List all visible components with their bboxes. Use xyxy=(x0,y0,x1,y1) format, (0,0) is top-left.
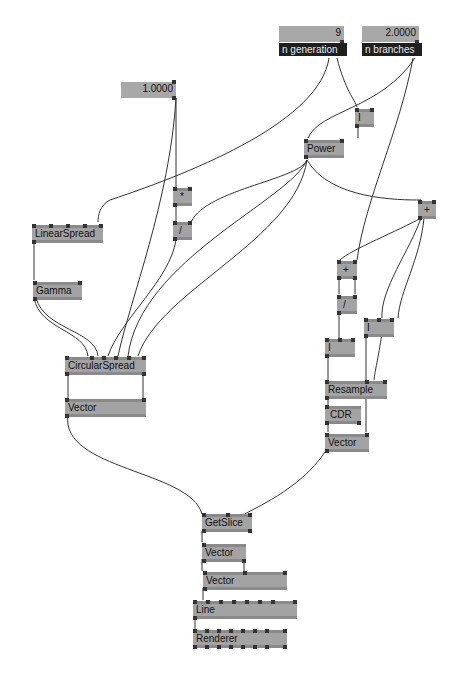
pin[interactable] xyxy=(241,645,245,649)
pin[interactable] xyxy=(217,645,221,649)
pin[interactable] xyxy=(232,600,236,604)
pin[interactable] xyxy=(202,513,206,517)
pin[interactable] xyxy=(271,600,275,604)
pin[interactable] xyxy=(353,276,357,280)
pin[interactable] xyxy=(365,433,369,437)
pin[interactable] xyxy=(172,80,176,84)
pin[interactable] xyxy=(253,645,257,649)
pin[interactable] xyxy=(99,224,103,228)
node-gamma[interactable]: Gamma xyxy=(33,282,82,300)
pin[interactable] xyxy=(353,295,357,299)
pin[interactable] xyxy=(337,260,341,264)
pin[interactable] xyxy=(357,421,361,425)
node-plus-right[interactable]: + xyxy=(418,201,436,219)
pin[interactable] xyxy=(173,187,177,191)
pin[interactable] xyxy=(193,600,197,604)
pin[interactable] xyxy=(365,380,369,384)
node-renderer[interactable]: Renderer xyxy=(193,630,287,648)
pin[interactable] xyxy=(325,338,329,342)
node-linear-spread[interactable]: LinearSpread xyxy=(32,225,103,243)
node-multiply[interactable]: * xyxy=(173,188,192,206)
node-vector-left[interactable]: Vector xyxy=(65,399,146,417)
pin[interactable] xyxy=(205,645,209,649)
pin[interactable] xyxy=(173,237,177,241)
pin[interactable] xyxy=(205,629,209,633)
node-i-top[interactable]: I xyxy=(355,109,374,127)
pin[interactable] xyxy=(355,108,359,112)
pin[interactable] xyxy=(340,139,344,143)
pin[interactable] xyxy=(242,559,246,563)
pin[interactable] xyxy=(370,108,374,112)
pin[interactable] xyxy=(304,139,308,143)
pin[interactable] xyxy=(325,405,329,409)
pin[interactable] xyxy=(229,629,233,633)
pin[interactable] xyxy=(188,221,192,225)
pin[interactable] xyxy=(253,629,257,633)
pin[interactable] xyxy=(383,380,387,384)
pin[interactable] xyxy=(390,318,394,322)
pin[interactable] xyxy=(193,645,197,649)
scale-input[interactable]: 1.0000 xyxy=(121,82,176,98)
pin[interactable] xyxy=(193,629,197,633)
pin[interactable] xyxy=(65,414,69,418)
node-resample[interactable]: Resample xyxy=(325,381,387,399)
pin[interactable] xyxy=(418,200,422,204)
node-vector-b[interactable]: Vector xyxy=(203,572,287,590)
pin[interactable] xyxy=(293,600,297,604)
pin[interactable] xyxy=(325,421,329,425)
pin[interactable] xyxy=(66,224,70,228)
node-getslice[interactable]: GetSlice xyxy=(202,514,252,532)
pin[interactable] xyxy=(265,629,269,633)
n-branches-input[interactable]: 2.0000 xyxy=(362,26,419,42)
node-i-left[interactable]: I xyxy=(325,339,355,357)
node-vector-a[interactable]: Vector xyxy=(202,544,246,562)
node-vector-right[interactable]: Vector xyxy=(325,434,369,452)
pin[interactable] xyxy=(33,281,37,285)
pin[interactable] xyxy=(65,356,69,360)
node-power[interactable]: Power xyxy=(304,140,344,158)
pin[interactable] xyxy=(114,356,118,360)
pin[interactable] xyxy=(142,372,146,376)
pin[interactable] xyxy=(338,338,342,342)
pin[interactable] xyxy=(83,224,87,228)
pin[interactable] xyxy=(304,155,308,159)
pin[interactable] xyxy=(325,396,329,400)
node-i-right[interactable]: I xyxy=(364,319,394,337)
pin[interactable] xyxy=(337,311,341,315)
pin[interactable] xyxy=(203,571,207,575)
pin[interactable] xyxy=(203,587,207,591)
pin[interactable] xyxy=(351,338,355,342)
pin[interactable] xyxy=(283,571,287,575)
node-cdr[interactable]: CDR xyxy=(325,406,361,424)
node-circular-spread[interactable]: CircularSpread xyxy=(65,357,146,375)
pin[interactable] xyxy=(217,629,221,633)
pin[interactable] xyxy=(49,224,53,228)
pin[interactable] xyxy=(432,200,436,204)
node-plus-mid[interactable]: + xyxy=(337,261,357,279)
pin[interactable] xyxy=(229,645,233,649)
pin[interactable] xyxy=(283,645,287,649)
patch-canvas[interactable]: 9 n generation 2.0000 n branches 1.0000 … xyxy=(0,0,462,676)
pin[interactable] xyxy=(325,449,329,453)
node-divide-right[interactable]: / xyxy=(337,296,357,314)
pin[interactable] xyxy=(78,281,82,285)
pin[interactable] xyxy=(102,356,106,360)
pin[interactable] xyxy=(173,203,177,207)
pin[interactable] xyxy=(127,356,131,360)
pin[interactable] xyxy=(142,398,146,402)
pin[interactable] xyxy=(241,629,245,633)
pin[interactable] xyxy=(202,529,206,533)
pin[interactable] xyxy=(337,276,341,280)
pin[interactable] xyxy=(325,433,329,437)
pin[interactable] xyxy=(245,600,249,604)
pin[interactable] xyxy=(325,380,329,384)
pin[interactable] xyxy=(33,297,37,301)
pin[interactable] xyxy=(248,513,252,517)
n-generation-input[interactable]: 9 xyxy=(279,26,344,42)
pin[interactable] xyxy=(32,240,36,244)
pin[interactable] xyxy=(65,372,69,376)
pin[interactable] xyxy=(202,559,206,563)
pin[interactable] xyxy=(337,295,341,299)
pin[interactable] xyxy=(364,318,368,322)
pin[interactable] xyxy=(219,600,223,604)
